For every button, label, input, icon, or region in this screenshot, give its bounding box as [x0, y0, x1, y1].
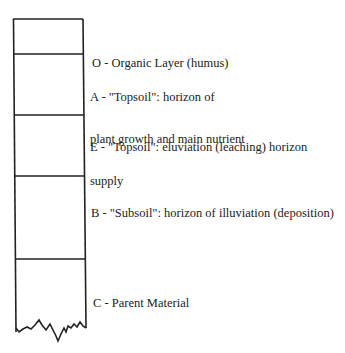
jagged-bottom-edge [16, 320, 86, 341]
horizon-b-label: B - "Subsoil": horizon of illuviation (d… [91, 178, 334, 248]
horizon-e-line-1: E - "Topsoil": eluviation (leaching) hor… [90, 140, 307, 154]
horizon-c-label: C - Parent Material [93, 268, 189, 338]
soil-profile-diagram: O - Organic Layer (humus) A - "Topsoil":… [0, 0, 345, 353]
horizon-e-label: E - "Topsoil": eluviation (leaching) hor… [90, 112, 307, 182]
horizon-c-line-1: C - Parent Material [93, 296, 189, 310]
horizon-a-line-1: A - "Topsoil": horizon of [90, 90, 245, 104]
horizon-b-line-1: B - "Subsoil": horizon of illuviation (d… [91, 206, 334, 220]
column-right-edge [83, 19, 86, 328]
